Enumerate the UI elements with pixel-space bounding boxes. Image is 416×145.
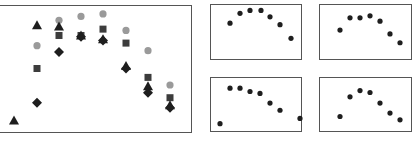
square-marker	[56, 32, 63, 39]
dot-marker	[277, 22, 282, 27]
dot-marker	[377, 100, 382, 105]
dot-marker	[237, 86, 242, 91]
dot-marker	[288, 36, 293, 41]
diamond-marker	[54, 47, 64, 57]
dot-marker	[237, 11, 242, 16]
dot-marker	[227, 21, 232, 26]
dot-marker	[247, 89, 252, 94]
triangle-marker	[54, 22, 64, 31]
circle-marker	[33, 42, 40, 49]
dot-marker	[347, 15, 352, 20]
diamond-marker	[98, 36, 108, 46]
dot-marker	[277, 108, 282, 113]
square-marker	[100, 26, 107, 33]
dot-marker	[227, 86, 232, 91]
dot-marker	[337, 27, 342, 32]
square-marker	[167, 94, 174, 101]
dot-marker	[357, 15, 362, 20]
circle-marker	[77, 13, 84, 20]
diamond-marker	[32, 98, 42, 108]
dot-marker	[257, 91, 262, 96]
dot-marker	[267, 100, 272, 105]
square-marker	[145, 74, 152, 81]
dot-marker	[347, 94, 352, 99]
dot-marker	[267, 14, 272, 19]
chart-canvas	[0, 0, 416, 145]
square-marker	[34, 65, 41, 72]
square-marker	[123, 40, 130, 47]
circle-marker	[166, 81, 173, 88]
diamond-marker	[121, 64, 131, 74]
diamond-marker	[165, 103, 175, 113]
dot-marker	[387, 111, 392, 116]
dot-marker	[357, 88, 362, 93]
dot-marker	[337, 114, 342, 119]
dot-marker	[247, 8, 252, 13]
circle-marker	[144, 47, 151, 54]
dot-marker	[387, 31, 392, 36]
dot-marker	[367, 90, 372, 95]
dot-marker	[377, 19, 382, 24]
triangle-marker	[32, 20, 42, 29]
circle-marker	[122, 27, 129, 34]
dot-marker	[367, 13, 372, 18]
circle-marker	[99, 10, 106, 17]
dot-marker	[297, 116, 302, 121]
dot-marker	[397, 40, 402, 45]
triangle-marker	[9, 116, 19, 125]
dot-marker	[397, 117, 402, 122]
dot-marker	[217, 121, 222, 126]
dot-marker	[258, 8, 263, 13]
